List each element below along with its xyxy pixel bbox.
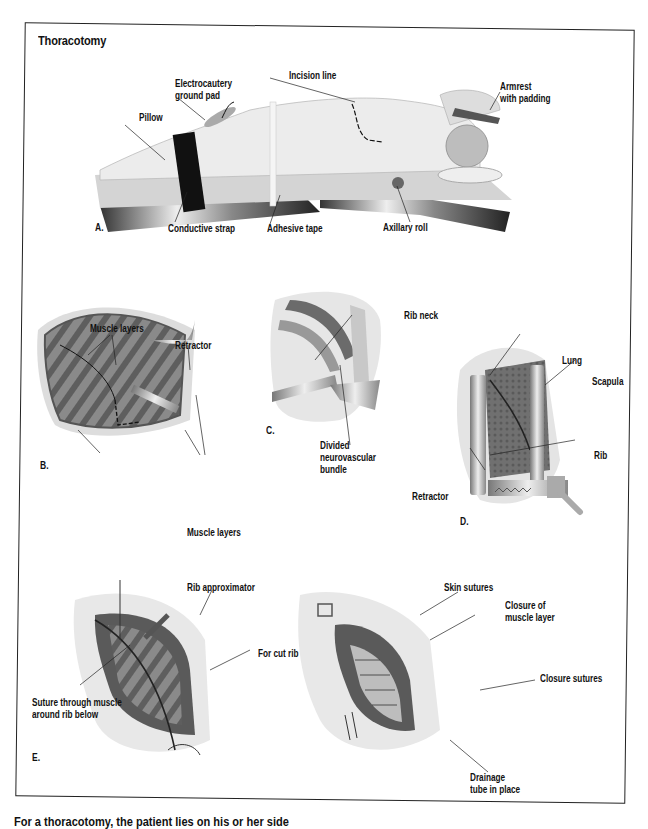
- label-axillary-roll: Axillary roll: [383, 222, 428, 234]
- label-muscle-layer: muscle layer: [505, 612, 555, 624]
- panel-d-art: [457, 348, 580, 512]
- label-retractor-d: Retractor: [412, 491, 448, 503]
- label-adhesive-tape: Adhesive tape: [267, 223, 323, 235]
- panel-letter-c: C.: [266, 425, 275, 436]
- label-drainage: Drainage: [470, 772, 505, 784]
- label-tube-in-place: tube in place: [470, 784, 520, 796]
- label-muscle-layers-bottom: Muscle layers: [187, 527, 241, 539]
- panel-letter-a: A.: [95, 222, 104, 233]
- label-skin-sutures: Skin sutures: [444, 582, 493, 594]
- label-rib-neck: Rib neck: [404, 310, 438, 322]
- label-pillow: Pillow: [139, 112, 163, 124]
- panel-f-art: [298, 592, 440, 750]
- label-retractor-b: Retractor: [175, 340, 211, 352]
- label-bundle: bundle: [320, 464, 347, 476]
- label-electrocautery: Electrocautery: [175, 78, 232, 90]
- label-incision-line: Incision line: [289, 70, 336, 82]
- panel-letter-b: B.: [40, 460, 49, 471]
- label-rib-approximator: Rib approximator: [187, 582, 255, 594]
- label-neurovascular: neurovascular: [320, 452, 376, 464]
- label-closure-sutures: Closure sutures: [540, 673, 602, 685]
- label-muscle-layers-top: Muscle layers: [90, 323, 144, 335]
- label-conductive-strap: Conductive strap: [168, 223, 235, 235]
- label-lung: Lung: [562, 355, 582, 367]
- panel-c-art: [270, 292, 380, 422]
- label-divided: Divided: [320, 440, 350, 452]
- label-scapula: Scapula: [592, 376, 623, 388]
- figure-caption: For a thoracotomy, the patient lies on h…: [14, 814, 289, 829]
- label-ground-pad: ground pad: [175, 90, 220, 102]
- panel-e-art: [74, 580, 210, 755]
- label-suture-line2: around rib below: [32, 709, 98, 721]
- label-closure-of: Closure of: [505, 600, 546, 612]
- label-suture-line1: Suture through muscle: [32, 697, 122, 709]
- label-armrest: Armrest: [500, 81, 531, 93]
- panel-letter-e: E.: [32, 752, 40, 763]
- label-rib: Rib: [594, 450, 607, 462]
- label-for-cut-rib: For cut rib: [258, 648, 299, 660]
- label-with-padding: with padding: [500, 93, 551, 105]
- panel-letter-d: D.: [460, 516, 469, 527]
